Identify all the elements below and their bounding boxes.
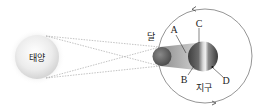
sun-label: 태양 [29, 53, 45, 63]
moon-label: 달 [147, 31, 155, 42]
earth-label: 지구 [196, 83, 212, 93]
ray-bottom-straight [46, 66, 160, 78]
point-a-label: A [170, 24, 178, 35]
ray-top-straight [46, 36, 160, 47]
moon-body [153, 47, 172, 66]
point-b-label: B [181, 74, 188, 85]
sun: 태양 [9, 29, 65, 85]
solar-eclipse-diagram: 태양 달 지구 A C B D [0, 0, 263, 111]
point-d-label: D [222, 75, 229, 86]
point-d-marker [211, 66, 213, 68]
point-c-label: C [196, 18, 203, 29]
